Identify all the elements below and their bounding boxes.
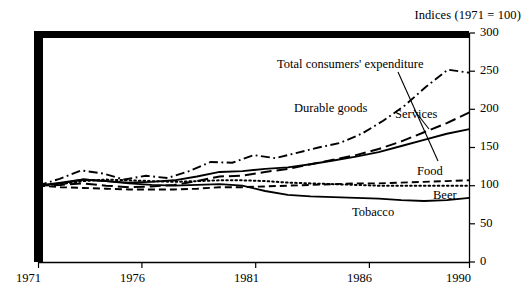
- x-tick-label-1981: 1981: [234, 271, 259, 286]
- frame-top-bar: [34, 31, 469, 38]
- series-label-food: Food: [417, 164, 443, 179]
- series-label-services: Services: [395, 107, 437, 122]
- y-tick-label-200: 200: [480, 101, 499, 116]
- y-tick-label-150: 150: [480, 139, 499, 154]
- y-tick-label-0: 0: [480, 254, 486, 269]
- y-tick-label-50: 50: [480, 216, 493, 231]
- y-tick-label-250: 250: [480, 63, 499, 78]
- x-tick-label-1976: 1976: [120, 271, 145, 286]
- y-tick-label-300: 300: [480, 25, 499, 40]
- chart-container: Indices (1971 = 100): [0, 0, 529, 294]
- series-label-tobacco: Tobacco: [352, 205, 394, 220]
- chart-plot-area: [0, 0, 529, 294]
- series-line-services: [38, 112, 470, 187]
- chart-series-layer: [38, 70, 470, 201]
- x-tick-label-1990: 1990: [446, 271, 471, 286]
- x-tick-label-1986: 1986: [347, 271, 372, 286]
- series-label-durable-goods: Durable goods: [294, 101, 367, 116]
- series-label-total-consumers-expenditure: Total consumers' expenditure: [277, 57, 423, 72]
- x-tick-label-1971: 1971: [16, 271, 41, 286]
- y-tick-marks: [470, 33, 476, 262]
- series-label-beer: Beer: [433, 188, 457, 203]
- frame-left-bar: [34, 31, 43, 262]
- series-line-total-consumers-expenditure: [38, 129, 470, 185]
- y-tick-label-100: 100: [480, 177, 499, 192]
